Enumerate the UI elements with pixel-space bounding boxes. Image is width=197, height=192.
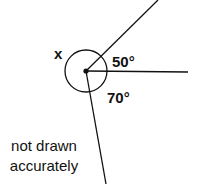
note-line-2: accurately — [10, 157, 79, 174]
note-line-1: not drawn — [11, 137, 77, 154]
label-70-degrees: 70° — [107, 89, 130, 106]
angle-diagram: x 50° 70° not drawn accurately — [0, 0, 197, 192]
center-point — [83, 68, 88, 73]
label-x: x — [54, 45, 63, 62]
ray-right — [86, 71, 188, 72]
label-50-degrees: 50° — [112, 53, 135, 70]
ray-down — [86, 71, 106, 184]
